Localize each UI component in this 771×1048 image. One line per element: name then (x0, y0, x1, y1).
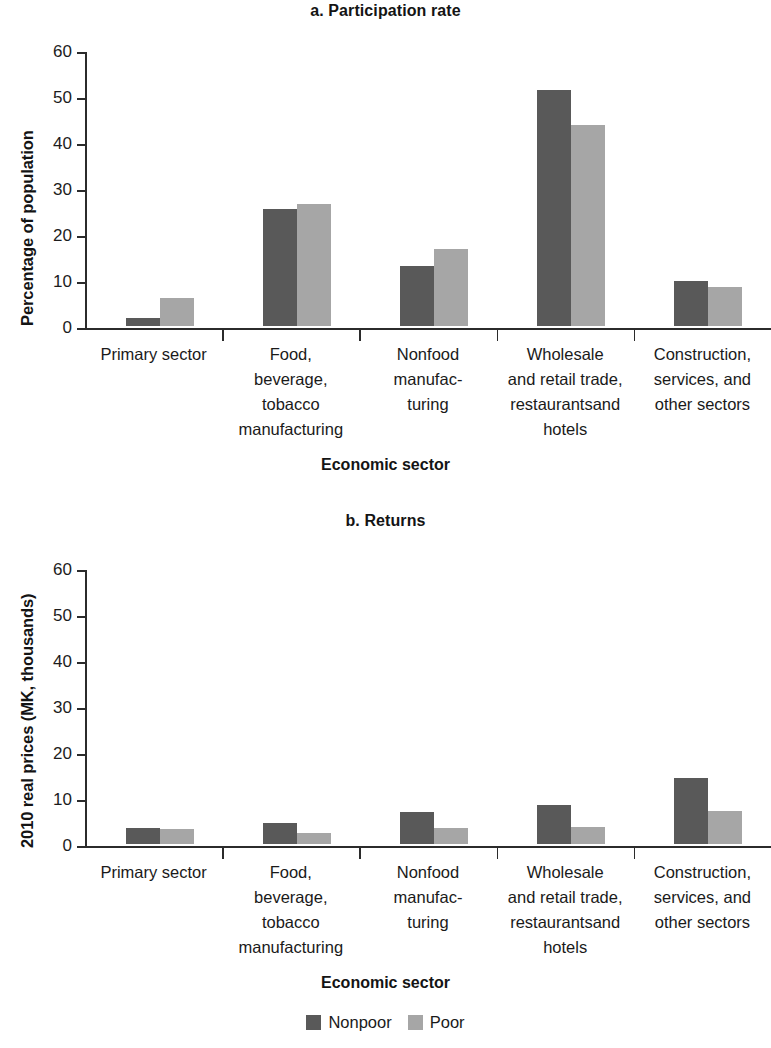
category-label-line: tobacco (216, 910, 365, 935)
bar-poor-1 (160, 829, 194, 844)
category-label-5: Construction,services, andother sectors (628, 342, 771, 417)
y-axis-tick-label: 10 (53, 790, 72, 810)
chart-a-participation-rate: Percentage of population 0102030405060 P… (0, 30, 771, 340)
y-axis-tick: 60 (77, 570, 85, 572)
bar-group-1 (126, 568, 194, 844)
category-label-line: Nonfood (353, 342, 502, 367)
chart-a-y-axis-title: Percentage of population (18, 130, 37, 326)
category-label-line: Construction, (628, 342, 771, 367)
chart-b-y-axis-title: 2010 real prices (MK, thousands) (18, 594, 37, 848)
bar-poor-5 (708, 287, 742, 326)
y-axis-tick: 50 (77, 616, 85, 618)
y-axis-tick-label: 40 (53, 134, 72, 154)
x-axis-tick (497, 330, 499, 341)
category-label-line: Wholesale (491, 342, 640, 367)
y-axis-tick: 40 (77, 662, 85, 664)
bar-nonpoor-4 (537, 90, 571, 326)
category-label-line: manufac- (353, 885, 502, 910)
bar-group-3 (400, 568, 468, 844)
y-axis-tick: 20 (77, 236, 85, 238)
category-label-2: Food,beverage,tobaccomanufacturing (216, 342, 365, 442)
category-label-line: other sectors (628, 392, 771, 417)
chart-b-x-axis-line (85, 846, 771, 848)
chart-a-x-axis-line (85, 328, 771, 330)
x-axis-tick (359, 848, 361, 859)
bar-group-2 (263, 50, 331, 326)
bar-poor-4 (571, 827, 605, 844)
bar-nonpoor-1 (126, 318, 160, 326)
category-label-line: manufacturing (216, 935, 365, 960)
bar-nonpoor-2 (263, 823, 297, 844)
y-axis-tick: 0 (77, 846, 85, 848)
category-label-line: Wholesale (491, 860, 640, 885)
category-label-3: Nonfoodmanufac-turing (353, 342, 502, 417)
bar-poor-2 (297, 833, 331, 845)
x-axis-tick (634, 848, 636, 859)
category-label-3: Nonfoodmanufac-turing (353, 860, 502, 935)
legend-label: Poor (430, 1013, 465, 1032)
y-axis-tick: 0 (77, 328, 85, 330)
category-label-line: restaurantsand (491, 910, 640, 935)
bar-group-4 (537, 50, 605, 326)
category-label-line: beverage, (216, 885, 365, 910)
bar-nonpoor-4 (537, 805, 571, 844)
x-axis-tick (359, 330, 361, 341)
category-label-line: Primary sector (79, 860, 228, 885)
category-label-line: hotels (491, 935, 640, 960)
chart-a-y-axis-line (85, 52, 87, 329)
legend-swatch-icon (306, 1015, 321, 1030)
chart-legend: NonpoorPoor (0, 1013, 771, 1032)
category-label-line: Primary sector (79, 342, 228, 367)
y-axis-tick-label: 20 (53, 226, 72, 246)
category-label-1: Primary sector (79, 342, 228, 367)
chart-b-returns: 2010 real prices (MK, thousands) 0102030… (0, 548, 771, 858)
y-axis-tick-label: 60 (53, 560, 72, 580)
category-label-5: Construction,services, andother sectors (628, 860, 771, 935)
category-label-line: Food, (216, 342, 365, 367)
bar-group-4 (537, 568, 605, 844)
bar-nonpoor-2 (263, 209, 297, 326)
bar-poor-2 (297, 204, 331, 326)
bar-group-5 (674, 568, 742, 844)
category-label-line: hotels (491, 417, 640, 442)
y-axis-tick-label: 60 (53, 42, 72, 62)
y-axis-tick: 30 (77, 190, 85, 192)
panel-b-title: b. Returns (0, 512, 771, 530)
y-axis-tick: 30 (77, 708, 85, 710)
category-label-line: services, and (628, 885, 771, 910)
y-axis-tick: 60 (77, 52, 85, 54)
bar-poor-1 (160, 298, 194, 326)
category-label-line: manufac- (353, 367, 502, 392)
category-label-4: Wholesaleand retail trade,restaurantsand… (491, 342, 640, 442)
y-axis-tick: 10 (77, 282, 85, 284)
category-label-line: restaurantsand (491, 392, 640, 417)
legend-item-nonpoor: Nonpoor (306, 1013, 391, 1032)
y-axis-tick-label: 0 (63, 318, 72, 338)
category-label-line: services, and (628, 367, 771, 392)
y-axis-tick-label: 20 (53, 744, 72, 764)
bar-poor-3 (434, 249, 468, 326)
category-label-line: Food, (216, 860, 365, 885)
x-axis-tick (222, 330, 224, 341)
category-label-line: and retail trade, (491, 367, 640, 392)
bar-group-2 (263, 568, 331, 844)
category-label-4: Wholesaleand retail trade,restaurantsand… (491, 860, 640, 960)
bar-poor-5 (708, 811, 742, 844)
bar-poor-4 (571, 125, 605, 326)
category-label-line: manufacturing (216, 417, 365, 442)
bar-poor-3 (434, 828, 468, 844)
y-axis-tick-label: 10 (53, 272, 72, 292)
category-label-line: turing (353, 910, 502, 935)
category-label-line: and retail trade, (491, 885, 640, 910)
chart-b-plot-area: 0102030405060 (85, 570, 771, 846)
panel-a-title: a. Participation rate (0, 2, 771, 20)
y-axis-tick: 40 (77, 144, 85, 146)
y-axis-tick-label: 30 (53, 180, 72, 200)
figure-panels: a. Participation rate Percentage of popu… (0, 0, 771, 1048)
bar-nonpoor-5 (674, 281, 708, 326)
y-axis-tick-label: 50 (53, 606, 72, 626)
legend-label: Nonpoor (328, 1013, 391, 1032)
y-axis-tick-label: 50 (53, 88, 72, 108)
legend-item-poor: Poor (408, 1013, 465, 1032)
x-axis-tick (634, 330, 636, 341)
